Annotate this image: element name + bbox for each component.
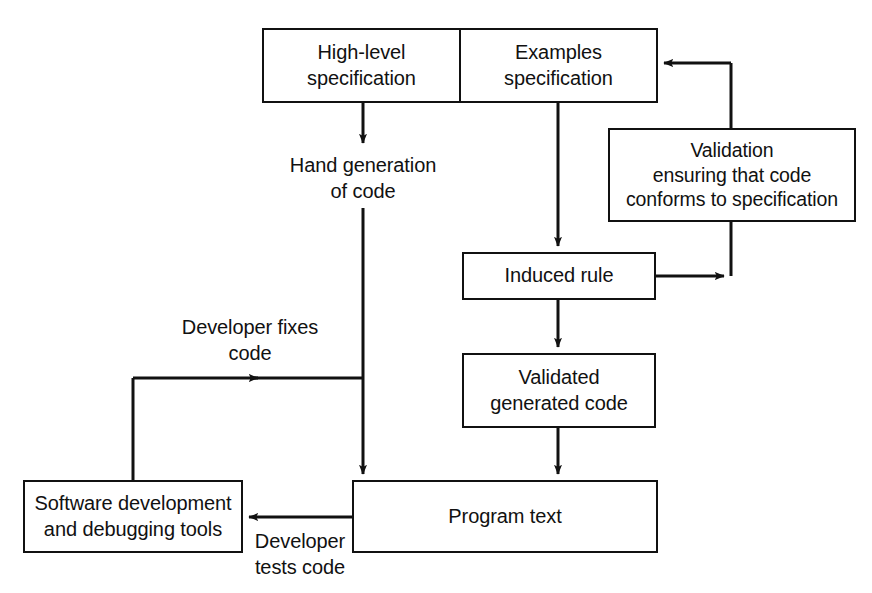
- node-software-development-and-debugging-tools-label: Software development and debugging tools: [28, 491, 237, 542]
- node-examples-specification[interactable]: Examples specification: [459, 30, 656, 101]
- node-high-level-specification[interactable]: High-level specification: [264, 30, 459, 101]
- node-specification-group: High-level specification Examples specif…: [262, 28, 658, 103]
- edge-label-hand-generation-of-code: Hand generation of code: [265, 152, 461, 204]
- diagram-canvas: High-level specification Examples specif…: [0, 0, 872, 593]
- node-induced-rule-label: Induced rule: [499, 263, 620, 289]
- node-induced-rule[interactable]: Induced rule: [462, 252, 656, 300]
- node-validated-generated-code-label: Validated generated code: [484, 365, 634, 416]
- edge-label-developer-fixes-code: Developer fixes code: [152, 314, 348, 366]
- node-validation[interactable]: Validation ensuring that code conforms t…: [608, 128, 856, 222]
- node-program-text[interactable]: Program text: [352, 480, 658, 553]
- node-software-development-and-debugging-tools[interactable]: Software development and debugging tools: [23, 480, 243, 553]
- edge-label-developer-tests-code: Developer tests code: [248, 528, 352, 580]
- node-high-level-specification-label: High-level specification: [301, 40, 422, 91]
- node-validated-generated-code[interactable]: Validated generated code: [462, 353, 656, 428]
- node-program-text-label: Program text: [442, 504, 567, 530]
- node-examples-specification-label: Examples specification: [498, 40, 619, 91]
- node-validation-label: Validation ensuring that code conforms t…: [620, 138, 844, 213]
